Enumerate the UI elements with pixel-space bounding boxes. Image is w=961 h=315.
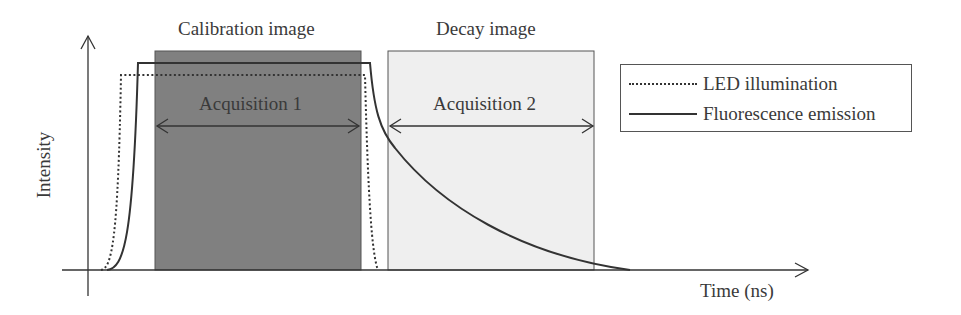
legend-item-led: LED illumination <box>629 72 838 96</box>
solid-line-swatch-icon <box>629 113 697 115</box>
timing-diagram <box>0 0 961 315</box>
decay-image-title: Decay image <box>436 18 536 40</box>
dotted-line-swatch-icon <box>629 83 697 85</box>
acquisition-2-label: Acquisition 2 <box>433 93 536 115</box>
y-axis-label: Intensity <box>33 132 55 199</box>
x-axis-label: Time (ns) <box>700 280 774 302</box>
legend-item-fluorescence: Fluorescence emission <box>629 102 876 126</box>
decay-region <box>388 51 594 270</box>
legend-label: LED illumination <box>703 73 838 95</box>
calibration-image-title: Calibration image <box>178 18 315 40</box>
legend-label: Fluorescence emission <box>703 103 876 125</box>
calibration-region <box>155 51 361 270</box>
acquisition-1-label: Acquisition 1 <box>199 93 302 115</box>
legend: LED illumination Fluorescence emission <box>620 64 912 132</box>
